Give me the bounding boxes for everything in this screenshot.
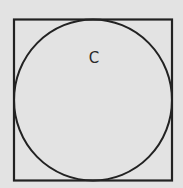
circle-label: C xyxy=(86,50,102,66)
geometry-figure xyxy=(0,0,183,188)
inscribed-circle xyxy=(14,20,172,181)
diagram-canvas: C xyxy=(0,0,183,188)
